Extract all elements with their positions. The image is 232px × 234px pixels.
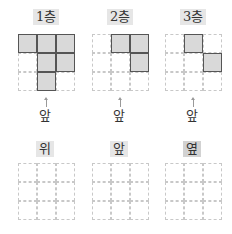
floor-plan-grid — [165, 34, 222, 91]
empty-cell[interactable] — [56, 163, 75, 182]
empty-cell[interactable] — [130, 72, 149, 91]
filled-cell — [203, 53, 222, 72]
empty-cell[interactable] — [56, 201, 75, 220]
empty-cell[interactable] — [18, 53, 37, 72]
empty-cell[interactable] — [18, 72, 37, 91]
view-label: 위 — [36, 141, 54, 157]
empty-cell[interactable] — [165, 201, 184, 220]
view-label: 앞 — [110, 141, 128, 157]
empty-cell[interactable] — [92, 53, 111, 72]
floor-label: 2층 — [107, 9, 133, 25]
answer-grid — [18, 163, 75, 220]
arrow-line — [46, 99, 47, 107]
empty-cell[interactable] — [92, 163, 111, 182]
empty-cell[interactable] — [37, 201, 56, 220]
empty-cell[interactable] — [165, 34, 184, 53]
empty-cell[interactable] — [130, 182, 149, 201]
empty-cell[interactable] — [111, 72, 130, 91]
empty-cell[interactable] — [184, 72, 203, 91]
floor-label: 3층 — [180, 9, 206, 25]
empty-cell[interactable] — [92, 72, 111, 91]
empty-cell[interactable] — [111, 201, 130, 220]
empty-cell[interactable] — [165, 182, 184, 201]
filled-cell — [130, 53, 149, 72]
empty-cell[interactable] — [18, 201, 37, 220]
floor-plan-grid — [18, 34, 75, 91]
empty-cell[interactable] — [184, 53, 203, 72]
empty-cell[interactable] — [130, 201, 149, 220]
empty-cell[interactable] — [130, 163, 149, 182]
filled-cell — [130, 34, 149, 53]
filled-cell — [37, 72, 56, 91]
arrow-line — [120, 99, 121, 107]
empty-cell[interactable] — [92, 34, 111, 53]
front-direction-label: 앞 — [186, 108, 198, 124]
empty-cell[interactable] — [37, 182, 56, 201]
empty-cell[interactable] — [165, 53, 184, 72]
empty-cell[interactable] — [111, 163, 130, 182]
empty-cell[interactable] — [203, 34, 222, 53]
empty-cell[interactable] — [165, 163, 184, 182]
front-direction-label: 앞 — [39, 108, 51, 124]
filled-cell — [56, 34, 75, 53]
empty-cell[interactable] — [184, 182, 203, 201]
filled-cell — [18, 34, 37, 53]
empty-cell[interactable] — [203, 182, 222, 201]
empty-cell[interactable] — [203, 163, 222, 182]
arrow-line — [193, 99, 194, 107]
answer-grid — [165, 163, 222, 220]
empty-cell[interactable] — [165, 72, 184, 91]
empty-cell[interactable] — [92, 201, 111, 220]
front-direction-label: 앞 — [113, 108, 125, 124]
empty-cell[interactable] — [37, 163, 56, 182]
filled-cell — [184, 34, 203, 53]
empty-cell[interactable] — [18, 182, 37, 201]
empty-cell[interactable] — [56, 182, 75, 201]
empty-cell[interactable] — [111, 182, 130, 201]
floor-label: 1층 — [33, 9, 59, 25]
empty-cell[interactable] — [18, 163, 37, 182]
view-label: 옆 — [183, 141, 201, 157]
filled-cell — [37, 34, 56, 53]
filled-cell — [37, 53, 56, 72]
filled-cell — [56, 53, 75, 72]
empty-cell[interactable] — [56, 72, 75, 91]
filled-cell — [111, 34, 130, 53]
answer-grid — [92, 163, 149, 220]
empty-cell[interactable] — [203, 72, 222, 91]
empty-cell[interactable] — [184, 201, 203, 220]
floor-plan-grid — [92, 34, 149, 91]
empty-cell[interactable] — [92, 182, 111, 201]
empty-cell[interactable] — [111, 53, 130, 72]
empty-cell[interactable] — [203, 201, 222, 220]
empty-cell[interactable] — [184, 163, 203, 182]
